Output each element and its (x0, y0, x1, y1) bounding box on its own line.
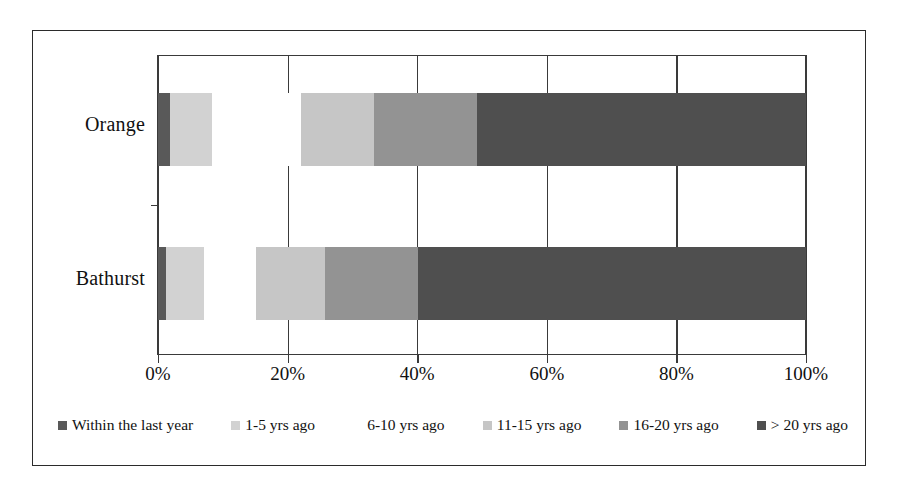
legend-item[interactable]: 16-20 yrs ago (619, 416, 718, 434)
x-tick-80% (676, 355, 677, 363)
x-tick-0% (158, 355, 159, 363)
plot-area (158, 55, 806, 355)
chart-page: Orange Bathurst 0%20%40%60%80%100% Withi… (0, 0, 898, 496)
bar-segment[interactable] (158, 247, 166, 320)
x-tick-label: 0% (118, 363, 198, 385)
legend-swatch-icon (231, 421, 240, 430)
legend-item[interactable]: 6-10 yrs ago (353, 416, 445, 434)
bar-segment[interactable] (170, 93, 213, 166)
legend-swatch-icon (353, 421, 362, 430)
x-tick-60% (547, 355, 548, 363)
legend-label: Within the last year (72, 416, 193, 434)
legend-label: > 20 yrs ago (771, 416, 848, 434)
legend-label: 16-20 yrs ago (633, 416, 718, 434)
bar-segment[interactable] (158, 93, 170, 166)
x-tick-label: 20% (248, 363, 328, 385)
bar-segment[interactable] (212, 93, 300, 166)
legend-swatch-icon (483, 421, 492, 430)
stacked-bar-bathurst[interactable] (158, 247, 806, 320)
x-tick-label: 80% (636, 363, 716, 385)
x-tick-20% (288, 355, 289, 363)
legend-swatch-icon (619, 421, 628, 430)
y-axis-label-bathurst: Bathurst (40, 267, 145, 290)
x-tick-label: 100% (766, 363, 846, 385)
legend-item[interactable]: > 20 yrs ago (757, 416, 848, 434)
bar-segment[interactable] (418, 247, 806, 320)
bar-segment[interactable] (204, 247, 256, 320)
chart-legend: Within the last year1-5 yrs ago6-10 yrs … (58, 412, 848, 438)
bar-segment[interactable] (301, 93, 375, 166)
legend-item[interactable]: 11-15 yrs ago (483, 416, 582, 434)
y-axis-tick-mid (151, 205, 158, 206)
bar-segment[interactable] (374, 93, 477, 166)
legend-label: 1-5 yrs ago (245, 416, 315, 434)
legend-swatch-icon (58, 421, 67, 430)
x-tick-label: 60% (507, 363, 587, 385)
bar-segment[interactable] (166, 247, 204, 320)
x-tick-40% (417, 355, 418, 363)
bar-row-orange (158, 93, 806, 166)
bar-row-bathurst (158, 247, 806, 320)
legend-label: 11-15 yrs ago (497, 416, 582, 434)
legend-item[interactable]: Within the last year (58, 416, 193, 434)
bar-segment[interactable] (325, 247, 418, 320)
legend-item[interactable]: 1-5 yrs ago (231, 416, 315, 434)
x-tick-100% (806, 355, 807, 363)
gridline-100% (806, 55, 807, 355)
x-tick-label: 40% (377, 363, 457, 385)
bar-segment[interactable] (256, 247, 325, 320)
bar-segment[interactable] (477, 93, 806, 166)
legend-label: 6-10 yrs ago (367, 416, 445, 434)
stacked-bar-orange[interactable] (158, 93, 806, 166)
legend-swatch-icon (757, 421, 766, 430)
y-axis-label-orange: Orange (40, 113, 145, 136)
